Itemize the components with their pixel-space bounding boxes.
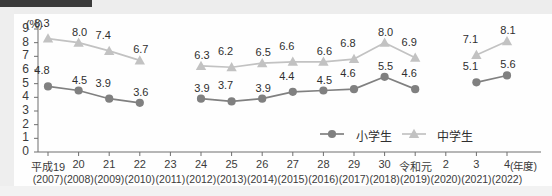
y-tick-label: 3 xyxy=(15,103,29,117)
data-label: 4.8 xyxy=(28,64,56,76)
data-label: 6.2 xyxy=(212,45,240,57)
data-label: 4.6 xyxy=(395,67,423,79)
data-point-0-8 xyxy=(289,88,297,96)
data-label: 8.3 xyxy=(28,17,56,29)
data-point-1-10 xyxy=(349,54,359,63)
data-label: 3.7 xyxy=(212,79,240,91)
data-point-0-11 xyxy=(381,73,389,81)
data-label: 6.8 xyxy=(334,37,362,49)
data-point-1-14 xyxy=(471,50,481,59)
y-tick-label: 7 xyxy=(15,48,29,62)
data-point-0-7 xyxy=(258,95,266,103)
legend-marker-shougakusei xyxy=(328,130,336,138)
y-tick-label: 0 xyxy=(15,144,29,158)
data-point-0-5 xyxy=(197,95,205,103)
data-label: 6.9 xyxy=(395,36,423,48)
data-label: 6.7 xyxy=(127,43,155,55)
data-point-0-12 xyxy=(411,85,419,93)
y-tick-label: 4 xyxy=(15,89,29,103)
data-point-1-11 xyxy=(379,37,389,46)
chart-page: (%) 0123456789 平成19(2007)20(2008)21(2009… xyxy=(0,0,552,196)
data-label: 4.4 xyxy=(273,70,301,82)
data-point-0-15 xyxy=(503,71,511,79)
data-label: 7.1 xyxy=(456,33,484,45)
data-point-0-0 xyxy=(44,82,52,90)
data-label: 4.6 xyxy=(334,67,362,79)
data-point-0-2 xyxy=(105,95,113,103)
data-label: 7.4 xyxy=(89,29,117,41)
y-tick-label: 1 xyxy=(15,130,29,144)
y-tick-label: 5 xyxy=(15,76,29,90)
data-point-1-12 xyxy=(410,53,420,62)
data-point-0-14 xyxy=(472,78,480,86)
data-point-0-9 xyxy=(319,86,327,94)
data-point-0-3 xyxy=(136,99,144,107)
data-label: 5.6 xyxy=(494,58,522,70)
data-label: 8.1 xyxy=(494,24,522,36)
data-label: 3.6 xyxy=(127,86,155,98)
legend-label-chuugakusei: 中学生 xyxy=(437,127,473,144)
data-label: 6.6 xyxy=(273,40,301,52)
x-axis-unit-label: (年度) xyxy=(510,158,537,173)
data-point-0-1 xyxy=(75,86,83,94)
data-label: 3.9 xyxy=(89,77,117,89)
data-point-0-6 xyxy=(228,97,236,105)
line-chart: (%) 0123456789 平成19(2007)20(2008)21(2009… xyxy=(0,0,552,196)
legend-label-shougakusei: 小学生 xyxy=(356,127,392,144)
data-point-1-15 xyxy=(502,36,512,45)
data-label: 3.9 xyxy=(249,82,277,94)
y-tick-label: 9 xyxy=(15,21,29,35)
y-tick-label: 8 xyxy=(15,35,29,49)
y-tick-label: 6 xyxy=(15,62,29,76)
data-label: 5.1 xyxy=(456,60,484,72)
series-line-0 xyxy=(476,75,507,82)
x-tick-label-year: (2022) xyxy=(485,173,529,185)
y-tick-label: 2 xyxy=(15,117,29,131)
data-point-1-0 xyxy=(43,33,53,42)
data-point-0-10 xyxy=(350,85,358,93)
